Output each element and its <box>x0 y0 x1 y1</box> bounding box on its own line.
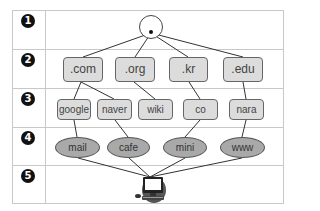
sld-node-nara: nara <box>229 99 264 120</box>
host-node-www: www <box>220 137 265 158</box>
host-node-cafe: cafe <box>107 137 150 158</box>
computer-icon <box>133 174 167 204</box>
tld-node-com: .com <box>63 57 103 82</box>
tld-node-org: .org <box>115 57 155 82</box>
sld-node-wiki: wiki <box>138 99 173 120</box>
sld-node-naver: naver <box>97 99 132 120</box>
tld-node-kr: .kr <box>169 57 208 82</box>
host-node-mail: mail <box>55 137 100 158</box>
tld-node-edu: .edu <box>223 57 263 82</box>
host-node-mini: mini <box>163 137 207 158</box>
root-node <box>139 15 163 39</box>
root-dot-icon <box>149 30 153 34</box>
sld-node-co: co <box>183 99 218 120</box>
sld-node-google: google <box>57 99 91 120</box>
